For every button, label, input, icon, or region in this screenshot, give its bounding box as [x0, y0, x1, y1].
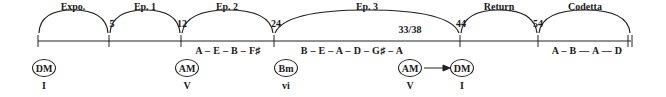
key-sequence-ep3: B – E – A – D – G♯ – A — [301, 45, 404, 56]
key-sequence-ep2: A – E – B – F♯ — [195, 45, 260, 56]
measure-number: 24 — [271, 18, 281, 29]
roman-numeral: vi — [282, 80, 290, 91]
key-sequence-codetta: A – B — A — D — [552, 45, 623, 56]
roman-numeral: V — [183, 80, 190, 91]
key-circle-bm: Bm — [274, 59, 298, 77]
measure-number: 33/38 — [399, 24, 422, 35]
section-label-expo: Expo. — [61, 1, 86, 12]
modulation-arrow — [424, 65, 450, 71]
section-label-ep1: Ep. 1 — [134, 1, 156, 12]
measure-number: 12 — [177, 18, 187, 29]
key-circle-am: AM — [175, 59, 199, 77]
roman-numeral: V — [406, 80, 413, 91]
key-circle-am: AM — [398, 59, 422, 77]
section-label-codetta: Codetta — [568, 1, 602, 12]
section-label-return: Return — [484, 1, 515, 12]
measure-number: 54 — [533, 18, 543, 29]
roman-numeral: I — [460, 80, 464, 91]
measure-number: 5 — [110, 18, 115, 29]
section-label-ep2: Ep. 2 — [216, 1, 238, 12]
key-circle-dm: DM — [450, 59, 474, 77]
roman-numeral: I — [42, 80, 46, 91]
section-label-ep3: Ep. 3 — [356, 1, 378, 12]
measure-number: 44 — [456, 18, 466, 29]
key-circle-dm: DM — [32, 59, 56, 77]
